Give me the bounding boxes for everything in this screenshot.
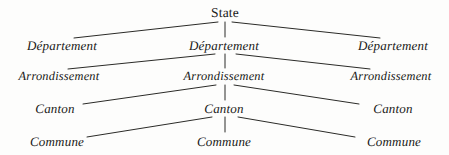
node-label-departement-2: Département bbox=[358, 39, 428, 52]
edge-state-to-departement-right bbox=[232, 22, 380, 38]
edge-canton-to-commune-left bbox=[87, 117, 212, 137]
node-label-canton-0: Canton bbox=[35, 102, 74, 115]
edge-arrondissement-to-canton-right bbox=[234, 85, 359, 104]
node-label-departement-1: Département bbox=[189, 39, 259, 52]
node-label-state-0: State bbox=[211, 6, 239, 20]
node-label-commune-0: Commune bbox=[30, 135, 84, 148]
edge-arrondissement-to-canton-left bbox=[83, 85, 216, 104]
node-label-commune-1: Commune bbox=[197, 135, 251, 148]
node-label-arrondissement-0: Arrondissement bbox=[19, 70, 100, 82]
node-label-commune-2: Commune bbox=[367, 135, 421, 148]
node-label-canton-1: Canton bbox=[204, 102, 243, 115]
hierarchy-diagram: StateDépartementDépartementDépartementAr… bbox=[0, 0, 449, 155]
edge-state-to-departement-left bbox=[74, 22, 218, 38]
edge-departement-to-arrondissement-right bbox=[236, 54, 370, 69]
node-label-arrondissement-2: Arrondissement bbox=[351, 70, 432, 82]
node-label-departement-0: Département bbox=[27, 39, 97, 52]
edge-canton-to-commune-right bbox=[238, 117, 355, 137]
node-label-arrondissement-1: Arrondissement bbox=[184, 70, 265, 82]
edge-departement-to-arrondissement-left bbox=[68, 54, 215, 69]
node-label-canton-2: Canton bbox=[373, 102, 412, 115]
